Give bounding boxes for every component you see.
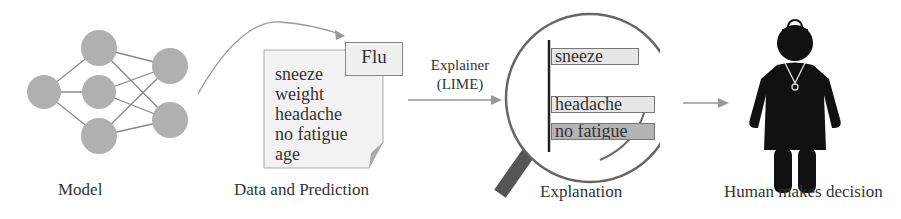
feature-item: no fatigue bbox=[275, 124, 347, 144]
data-prediction-stage: sneeze weight headache no fatigue age Fl… bbox=[180, 0, 420, 219]
data-caption: Data and Prediction bbox=[234, 180, 369, 200]
human-stage: Human makes decision bbox=[730, 0, 901, 219]
bar-label: headache bbox=[555, 96, 622, 113]
explanation-bar-no-fatigue: no fatigue bbox=[551, 123, 655, 140]
feature-list: sneeze weight headache no fatigue age bbox=[275, 64, 347, 164]
feature-item: weight bbox=[275, 84, 347, 104]
explanation-bar-sneeze: sneeze bbox=[551, 48, 639, 65]
bar-label: sneeze bbox=[555, 48, 603, 65]
explanation-caption: Explanation bbox=[540, 182, 622, 202]
feature-item: sneeze bbox=[275, 64, 347, 84]
explainer-label-line1: Explainer bbox=[420, 56, 500, 75]
human-caption: Human makes decision bbox=[724, 182, 883, 202]
model-stage: Model bbox=[0, 0, 200, 219]
explanation-stage: sneeze headache no fatigue Explanation bbox=[490, 0, 660, 219]
feature-item: age bbox=[275, 144, 347, 164]
doctor-icon bbox=[744, 15, 854, 200]
explanation-bar-headache: headache bbox=[551, 96, 655, 113]
bar-label: no fatigue bbox=[555, 123, 627, 140]
neural-network-icon bbox=[0, 0, 200, 170]
explainer-label: Explainer (LIME) bbox=[420, 56, 500, 94]
feature-item: headache bbox=[275, 104, 347, 124]
prediction-label: Flu bbox=[345, 42, 403, 76]
decision-arrow-icon bbox=[683, 93, 733, 113]
model-caption: Model bbox=[58, 180, 102, 200]
